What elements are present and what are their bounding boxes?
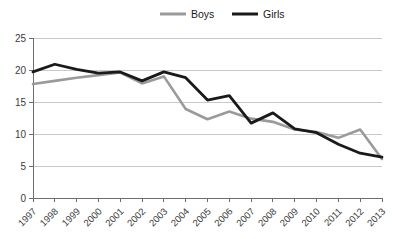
y-axis-tick-label: 10 xyxy=(15,129,27,140)
y-axis-tick-label: 25 xyxy=(15,33,27,44)
y-axis-ticks: 0510152025 xyxy=(15,33,33,204)
y-axis-tick-label: 15 xyxy=(15,97,27,108)
x-axis-tick-label: 2008 xyxy=(256,206,279,229)
x-axis-tick-label: 1997 xyxy=(16,206,39,229)
series-line-boys xyxy=(33,73,382,159)
legend-label-girls: Girls xyxy=(263,8,285,20)
y-axis-tick-label: 5 xyxy=(20,161,26,172)
x-axis-ticks xyxy=(33,198,382,202)
chart-canvas: Boys Girls 0510152025 199719981999200020… xyxy=(0,0,394,239)
x-axis-tick-label: 2009 xyxy=(277,206,300,229)
legend-label-boys: Boys xyxy=(191,8,214,20)
x-axis-tick-label: 2010 xyxy=(299,206,322,229)
x-axis-tick-label: 2013 xyxy=(365,206,388,229)
series-line-girls xyxy=(33,64,382,157)
x-axis-tick-labels: 1997199819992000200120022003200420052006… xyxy=(16,206,388,229)
x-axis-tick-label: 2001 xyxy=(103,206,126,229)
y-axis-tick-label: 0 xyxy=(20,193,26,204)
x-axis-tick-label: 2004 xyxy=(168,206,191,229)
x-axis-tick-label: 2006 xyxy=(212,206,235,229)
gridlines xyxy=(33,38,382,166)
x-axis-tick-label: 2007 xyxy=(234,206,257,229)
x-axis-tick-label: 2002 xyxy=(125,206,148,229)
x-axis-tick-label: 2003 xyxy=(147,206,170,229)
x-axis-tick-label: 2005 xyxy=(190,206,213,229)
x-axis-tick-label: 2012 xyxy=(343,206,366,229)
line-chart: Boys Girls 0510152025 199719981999200020… xyxy=(0,0,394,239)
y-axis-tick-label: 20 xyxy=(15,65,27,76)
x-axis-tick-label: 1998 xyxy=(37,206,60,229)
x-axis-tick-label: 2000 xyxy=(81,206,104,229)
x-axis-tick-label: 1999 xyxy=(59,206,82,229)
x-axis-tick-label: 2011 xyxy=(322,206,344,228)
chart-legend: Boys Girls xyxy=(160,8,285,20)
